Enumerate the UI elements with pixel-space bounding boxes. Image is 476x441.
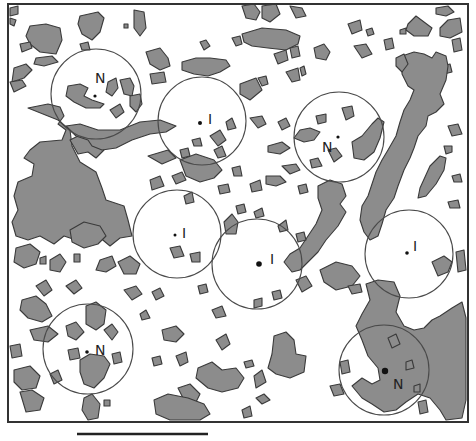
habitat-patch [348, 20, 362, 34]
habitat-patch [366, 28, 374, 36]
habitat-patch [352, 118, 384, 160]
habitat-patch [184, 192, 194, 204]
site-label: I [208, 111, 212, 127]
habitat-patch [278, 118, 290, 130]
habitat-patch [40, 256, 46, 264]
habitat-patch [242, 4, 260, 20]
habitat-patch [418, 400, 428, 414]
habitat-patch [20, 296, 52, 322]
habitat-patch [342, 106, 354, 120]
habitat-patch [34, 56, 58, 66]
habitat-patch [12, 64, 32, 82]
habitat-patch [118, 256, 140, 274]
habitat-patch [80, 42, 90, 50]
habitat-patch [176, 352, 188, 366]
habitat-patch [20, 390, 44, 412]
site-center-dot [256, 261, 262, 267]
habitat-patch [250, 116, 266, 128]
habitat-patch [10, 6, 18, 16]
habitat-patch [180, 154, 222, 182]
habitat-patch [74, 254, 80, 262]
site-center-dot [382, 368, 388, 374]
habitat-patch [210, 130, 226, 146]
site-center-dot [85, 350, 89, 354]
habitat-patch [266, 176, 286, 186]
habitat-patch [296, 276, 312, 292]
habitat-patch [152, 288, 164, 300]
habitat-patch [400, 28, 406, 34]
habitat-patch [244, 360, 254, 368]
site-label: I [270, 251, 274, 267]
habitat-patch [148, 150, 176, 164]
habitat-patch [414, 384, 420, 392]
habitat-map: NINIIINN [0, 0, 476, 441]
habitat-patch [14, 244, 40, 268]
habitat-patch [348, 284, 362, 294]
habitat-patch [66, 280, 82, 294]
habitat-patch [448, 124, 462, 136]
habitat-patch [198, 284, 208, 294]
habitat-patch [254, 208, 264, 218]
habitat-patch [406, 16, 432, 36]
habitat-patch [256, 394, 270, 404]
site-center-dot [93, 94, 96, 97]
habitat-patch [170, 246, 184, 258]
habitat-patch [20, 42, 32, 52]
habitat-patch [150, 176, 164, 190]
habitat-patch [352, 280, 466, 420]
habitat-patch [268, 332, 306, 378]
habitat-patch [10, 18, 16, 26]
habitat-patch [196, 362, 244, 392]
habitat-patch [290, 46, 300, 58]
site-circle [365, 210, 453, 298]
habitat-patch [310, 158, 322, 168]
site-label: I [182, 225, 186, 241]
habitat-patch [106, 78, 118, 96]
site-independent-6: I [365, 210, 453, 298]
site-independent-4: I [133, 190, 221, 278]
habitat-patch [254, 370, 266, 388]
site-label: N [322, 139, 332, 155]
habitat-patch [80, 354, 110, 388]
habitat-patch [406, 360, 414, 370]
habitat-patch [124, 286, 142, 300]
habitat-patch [154, 394, 210, 420]
habitat-patch [440, 18, 462, 38]
habitat-patch [26, 24, 62, 54]
habitat-patch [14, 366, 40, 390]
habitat-patch [10, 344, 22, 358]
habitat-patch [290, 6, 306, 18]
site-center-dot [174, 234, 177, 237]
habitat-patch [150, 72, 166, 84]
habitat-patch [242, 406, 252, 418]
habitat-patch [66, 322, 84, 340]
habitat-patch [212, 306, 226, 318]
habitat-patch [296, 232, 306, 242]
habitat-patch [146, 48, 170, 70]
habitat-patch [112, 352, 122, 364]
habitat-patch [214, 146, 226, 158]
habitat-patch [418, 156, 446, 198]
habitat-patch [66, 84, 104, 108]
habitat-patch [272, 290, 282, 300]
habitat-patch [140, 310, 150, 320]
site-label: N [95, 70, 105, 86]
habitat-patch [192, 138, 202, 146]
habitat-patch [50, 370, 62, 384]
habitat-patch [300, 66, 306, 76]
habitat-patch [314, 44, 330, 60]
site-center-dot [405, 251, 409, 255]
habitat-patch [226, 118, 236, 130]
site-circle [133, 190, 221, 278]
habitat-patch [384, 38, 394, 50]
habitat-patch [232, 36, 242, 46]
habitat-patch [120, 78, 134, 96]
habitat-patch [242, 28, 300, 50]
site-label: I [413, 238, 417, 254]
habitat-patch [162, 326, 184, 342]
habitat-patch [444, 146, 452, 154]
habitat-patch [104, 400, 110, 406]
habitat-patch [240, 78, 262, 100]
habitat-patch [36, 280, 52, 296]
site-label: N [95, 342, 105, 358]
